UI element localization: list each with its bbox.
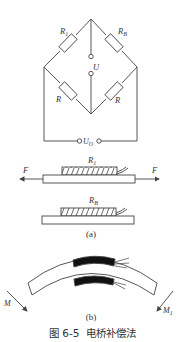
resistor-rb [105,34,123,53]
test-bar-1 [43,175,135,183]
strip-tension [20,167,159,183]
label-gauge-r1: R1 [87,155,96,166]
caption-number: 图 6-5 [49,327,80,339]
strain-gauge-rb [61,208,116,216]
resistor-r-right [105,82,123,101]
test-bar-2 [42,216,134,224]
label-moment-right: M1 [162,306,173,316]
output-terminal-right [97,139,101,143]
label-force-right: F [151,165,158,175]
label-part-a: (a) [86,229,96,239]
gauge-bottom-b [74,276,114,286]
gauge-leads-bottom-b [114,282,126,289]
label-r-left: R [55,94,62,104]
output-terminal-left [77,139,81,143]
label-output-uo: UO [83,137,94,147]
caption-title: 电桥补偿法 [86,327,136,339]
strain-gauge-r1 [62,167,117,175]
bridge-circuit [44,19,137,143]
label-supply-u: U [93,62,100,72]
gauge-leads-1 [117,167,128,174]
label-r1: R1 [59,26,68,37]
label-moment-left: M [3,299,12,308]
resistor-r-left [59,82,77,101]
label-part-b: (b) [86,312,97,322]
bridge-compensation-figure: R1 RB R R U UO R1 F F RB (a) M M1 (b) 图 … [0,0,182,342]
label-gauge-rb: RB [88,195,98,206]
gauge-leads-2 [116,208,127,215]
label-rb: RB [117,26,127,37]
strip-compensation [42,208,134,224]
label-r-right: R [114,95,121,105]
bent-beam [7,256,173,311]
label-force-left: F [22,165,29,175]
supply-terminal-top [89,54,93,58]
